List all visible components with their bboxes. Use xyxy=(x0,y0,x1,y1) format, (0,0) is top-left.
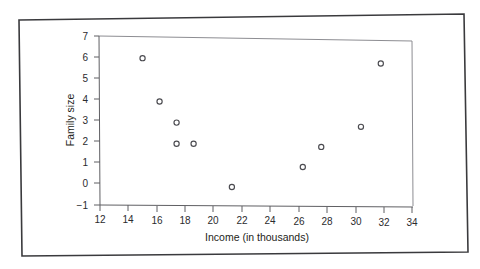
scatter-chart: 7 6 5 4 3 2 1 0 −1 xyxy=(0,0,480,269)
x-axis-title: Income (in thousands) xyxy=(205,231,309,243)
data-point xyxy=(174,141,179,146)
x-tick-label: 14 xyxy=(122,214,134,225)
y-tick-label: 1 xyxy=(82,157,88,168)
data-point xyxy=(358,124,363,129)
y-tick-label: 0 xyxy=(82,178,88,189)
y-tick-label: 5 xyxy=(82,73,88,84)
y-tick-label: 4 xyxy=(82,94,88,105)
data-point xyxy=(140,56,145,61)
y-tick-label: −1 xyxy=(77,200,89,211)
data-point xyxy=(300,164,305,169)
x-tick-label: 24 xyxy=(264,215,276,226)
y-axis-title: Family size xyxy=(64,94,76,147)
x-axis-line xyxy=(100,205,413,207)
x-tick-label: 12 xyxy=(94,214,106,225)
scanned-page: 7 6 5 4 3 2 1 0 −1 xyxy=(0,0,480,269)
data-point xyxy=(157,99,162,104)
data-point xyxy=(229,184,234,189)
x-tick-label: 18 xyxy=(179,215,191,226)
x-tick-label: 20 xyxy=(207,215,219,226)
data-point xyxy=(191,141,196,146)
x-tick-label: 32 xyxy=(378,217,390,228)
y-tick-label: 3 xyxy=(82,115,88,126)
x-tick-label: 34 xyxy=(406,217,418,228)
chart-canvas: 7 6 5 4 3 2 1 0 −1 xyxy=(0,0,480,269)
x-tick-label: 28 xyxy=(321,216,333,227)
data-point xyxy=(174,120,179,125)
x-tick-label: 22 xyxy=(236,215,248,226)
x-tick-label: 26 xyxy=(293,216,305,227)
y-tick-label: 7 xyxy=(82,31,88,42)
y-tick-label: 2 xyxy=(82,136,88,147)
data-point xyxy=(378,61,383,66)
data-point-group xyxy=(140,56,383,190)
plot-frame-right xyxy=(412,41,413,206)
y-tick-label: 6 xyxy=(82,52,88,63)
plot-frame-top xyxy=(99,36,412,41)
x-tick-label: 30 xyxy=(350,216,362,227)
x-tick-label: 16 xyxy=(151,215,163,226)
data-point xyxy=(319,144,324,149)
